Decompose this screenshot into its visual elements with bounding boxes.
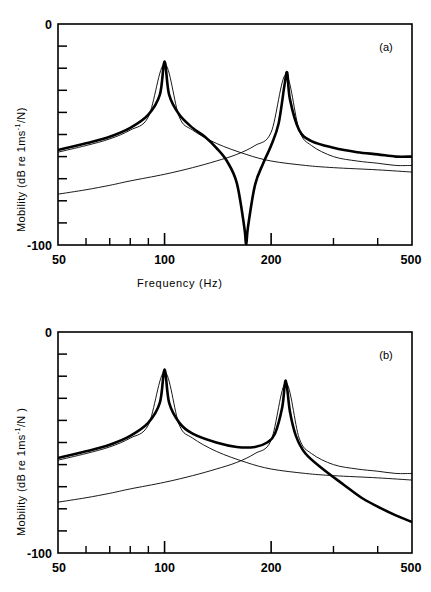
curves-group-b — [58, 370, 412, 522]
x-tick-label-500-b: 500 — [401, 561, 422, 575]
curves-group-a — [58, 62, 412, 245]
x-tick-label-50-a: 50 — [52, 253, 66, 267]
series-total-mobility-a — [58, 62, 412, 245]
x-tick-label-200-a: 200 — [261, 253, 282, 267]
y-axis-label-b-post: /N ) — [15, 408, 27, 427]
panel-tag-b: (b) — [379, 349, 392, 361]
x-tick-label-50-b: 50 — [52, 561, 66, 575]
panel-tag-a: (a) — [379, 41, 392, 53]
x-tick-label-100-b: 100 — [154, 561, 175, 575]
figure-two-panel-mobility: 0-10050100200500(a) Mobility (dB re 1ms-… — [0, 0, 431, 592]
plot-area-b: 0-10050100200500(b) — [0, 300, 431, 592]
y-tick-label-0-a: 0 — [45, 18, 52, 32]
y-tick-label-minus100-a: -100 — [27, 239, 52, 253]
x-tick-label-200-b: 200 — [261, 561, 282, 575]
series-total-mobility-b — [58, 370, 412, 522]
y-axis-label-b: Mobility (dB re 1ms-1/N ) — [14, 408, 27, 536]
panel-a: 0-10050100200500(a) Mobility (dB re 1ms-… — [0, 0, 431, 300]
series-mode-1-component-a — [58, 64, 412, 172]
y-tick-label-0-b: 0 — [45, 326, 52, 340]
x-tick-label-500-a: 500 — [401, 253, 422, 267]
y-axis-label-a: Mobility (dB re 1ms-1/N) — [14, 107, 27, 232]
series-mode-2-component-b — [58, 383, 412, 502]
plot-area-a: 0-10050100200500(a) — [0, 0, 431, 300]
panel-b: 0-10050100200500(b) Mobility (dB re 1ms-… — [0, 300, 431, 592]
y-axis-label-a-sup: -1 — [14, 123, 22, 130]
y-tick-label-minus100-b: -100 — [27, 547, 52, 561]
series-mode-1-component-b — [58, 372, 412, 480]
y-axis-label-b-sup: -1 — [14, 427, 22, 434]
y-axis-label-a-post: /N) — [15, 107, 27, 123]
y-axis-label-b-pre: Mobility (dB re 1ms — [15, 434, 27, 536]
x-tick-label-100-a: 100 — [154, 253, 175, 267]
x-axis-label-a: Frequency (Hz) — [137, 277, 223, 289]
y-axis-label-a-pre: Mobility (dB re 1ms — [15, 130, 27, 232]
